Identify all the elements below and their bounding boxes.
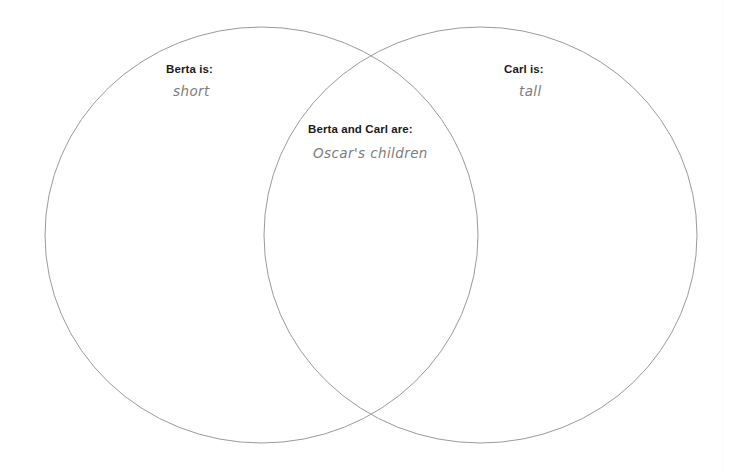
venn-circle-left[interactable] <box>45 27 478 443</box>
venn-label-right: Carl is: tall <box>504 62 544 100</box>
venn-diagram-canvas: Berta is: short Carl is: tall Berta and … <box>0 0 744 472</box>
venn-circle-right[interactable] <box>264 27 697 443</box>
venn-label-intersection-value: Oscar's children <box>313 144 428 162</box>
venn-label-intersection: Berta and Carl are: Oscar's children <box>308 122 428 162</box>
page-edge-line <box>722 0 723 472</box>
venn-label-left: Berta is: short <box>166 62 213 100</box>
venn-label-right-heading: Carl is: <box>504 62 544 76</box>
venn-label-left-heading: Berta is: <box>166 62 213 76</box>
venn-label-right-value: tall <box>519 82 544 100</box>
venn-label-left-value: short <box>173 82 213 100</box>
venn-label-intersection-heading: Berta and Carl are: <box>308 122 428 136</box>
venn-circles-graphic <box>0 0 744 472</box>
